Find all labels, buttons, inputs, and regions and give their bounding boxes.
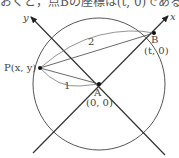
point-A-coords: (0, 0)	[86, 97, 113, 108]
segment-PB	[40, 33, 154, 68]
distance-PA-label: 1	[64, 80, 70, 91]
point-B-label: B	[151, 34, 158, 45]
distance-PB-label: 2	[88, 36, 94, 47]
point-B-coords: (t, 0)	[144, 45, 169, 56]
y-axis-label: y	[23, 12, 29, 23]
x-axis-label: x	[170, 11, 176, 22]
point-A	[97, 82, 101, 86]
geometry-diagram	[0, 0, 179, 158]
point-P-label: P(x, y)	[4, 62, 36, 73]
point-P	[38, 66, 42, 70]
